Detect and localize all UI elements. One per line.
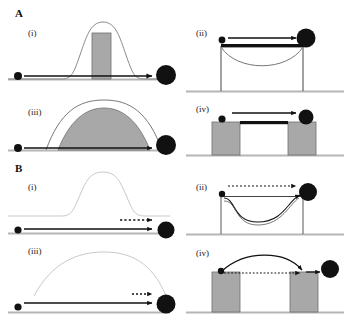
sublabel-A-iii: (iii) <box>28 107 42 117</box>
small-black-ball <box>14 144 22 152</box>
gray-block-left <box>212 272 240 312</box>
panel-letter-A: A <box>15 7 23 19</box>
large-black-ball <box>299 110 314 125</box>
large-black-ball <box>157 295 176 314</box>
scientific-figure: A (i) (iii) (ii) <box>0 0 350 318</box>
gray-block-right <box>290 272 318 312</box>
sublabel-A-i: (i) <box>28 28 37 38</box>
small-black-ball <box>218 268 224 274</box>
large-black-ball <box>158 222 175 239</box>
sublabel-A-ii: (ii) <box>196 28 207 38</box>
small-black-ball <box>219 191 225 197</box>
black-bridge-bar <box>240 121 288 124</box>
gray-block-right <box>288 122 316 155</box>
large-black-ball <box>156 65 176 85</box>
figure-background <box>0 0 350 318</box>
gray-block-left <box>212 122 240 155</box>
small-black-ball <box>14 72 22 80</box>
figure-root: A (i) (iii) (ii) <box>0 0 350 318</box>
small-black-ball <box>14 303 21 310</box>
sublabel-B-iii: (iii) <box>28 246 42 256</box>
sublabel-B-i: (i) <box>28 182 37 192</box>
large-black-ball <box>156 135 176 155</box>
large-black-ball <box>297 29 316 48</box>
sublabel-B-iv: (iv) <box>196 248 209 258</box>
panel-letter-B: B <box>15 162 23 174</box>
large-black-ball <box>321 260 339 278</box>
small-black-ball <box>219 37 226 44</box>
large-black-ball <box>299 183 317 201</box>
small-black-ball <box>218 115 225 122</box>
sublabel-B-ii: (ii) <box>196 182 207 192</box>
raised-platform <box>221 44 303 47</box>
narrow-gray-barrier <box>92 33 111 79</box>
sublabel-A-iv: (iv) <box>196 104 209 114</box>
small-black-ball <box>14 226 21 233</box>
